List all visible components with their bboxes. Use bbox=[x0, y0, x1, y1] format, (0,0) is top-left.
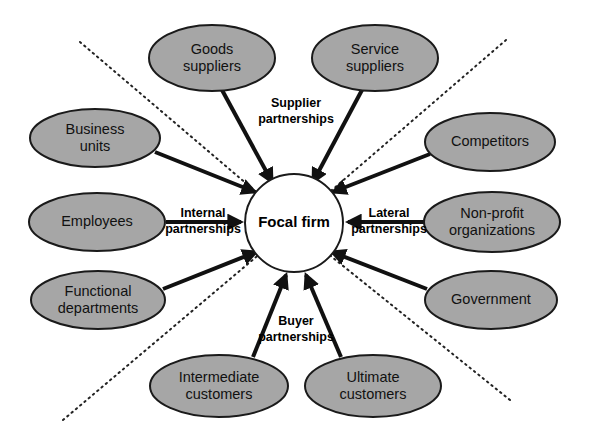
node-ultimate-customers[interactable]: Ultimatecustomers bbox=[305, 355, 441, 417]
node-business-units[interactable]: Businessunits bbox=[30, 109, 160, 167]
arrow-competitors bbox=[333, 154, 430, 192]
node-functional-departments[interactable]: Functionaldepartments bbox=[31, 271, 165, 329]
node-goods-suppliers[interactable]: Goodssuppliers bbox=[149, 25, 275, 91]
node-label-intermediate-customers: Intermediatecustomers bbox=[179, 368, 260, 401]
node-label-goods-suppliers: Goodssuppliers bbox=[183, 40, 241, 73]
focal-firm-node: Focal firm bbox=[245, 174, 343, 272]
edge-label-supplier-partnerships: Supplierpartnerships bbox=[258, 96, 334, 126]
diagram-canvas: GoodssuppliersServicesuppliersBusinessun… bbox=[0, 0, 589, 447]
node-non-profit-organizations[interactable]: Non-profitorganizations bbox=[424, 192, 560, 252]
focal-firm-label: Focal firm bbox=[258, 213, 330, 230]
arrow-functional-departments bbox=[163, 252, 256, 289]
node-label-ultimate-customers: Ultimatecustomers bbox=[340, 368, 407, 401]
node-label-non-profit-organizations: Non-profitorganizations bbox=[449, 204, 535, 237]
focal-firm[interactable]: Focal firm bbox=[245, 174, 343, 272]
node-employees[interactable]: Employees bbox=[29, 193, 165, 251]
node-label-employees: Employees bbox=[61, 213, 133, 229]
node-label-functional-departments: Functionaldepartments bbox=[58, 282, 139, 315]
arrow-business-units bbox=[155, 152, 255, 192]
node-label-competitors: Competitors bbox=[451, 133, 529, 149]
node-competitors[interactable]: Competitors bbox=[425, 113, 555, 171]
node-service-suppliers[interactable]: Servicesuppliers bbox=[312, 25, 438, 91]
node-label-government: Government bbox=[451, 291, 531, 307]
network-diagram: GoodssuppliersServicesuppliersBusinessun… bbox=[0, 0, 589, 447]
node-intermediate-customers[interactable]: Intermediatecustomers bbox=[150, 355, 288, 417]
node-label-service-suppliers: Servicesuppliers bbox=[346, 40, 404, 73]
arrow-government bbox=[332, 252, 427, 289]
node-government[interactable]: Government bbox=[425, 271, 557, 329]
